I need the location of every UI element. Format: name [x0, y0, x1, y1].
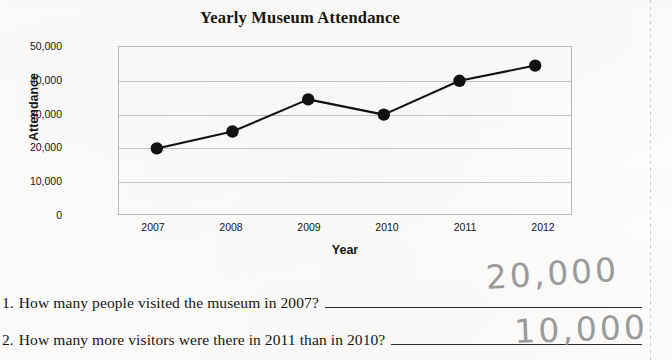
- question-2-answer-line[interactable]: [391, 344, 642, 345]
- x-tick-label-2012: 2012: [513, 221, 573, 233]
- question-2: 2. How many more visitors were there in …: [2, 331, 662, 357]
- y-tick-label-10000: 10,000: [0, 175, 62, 187]
- data-point-2007: [151, 142, 163, 154]
- question-1-answer-line[interactable]: [325, 307, 642, 308]
- chart-title: Yearly Museum Attendance: [0, 8, 600, 28]
- page-fold-line: [650, 0, 651, 360]
- x-tick-label-2009: 2009: [279, 221, 339, 233]
- data-point-2008: [226, 125, 238, 137]
- question-2-number: 2.: [2, 331, 14, 349]
- question-1-text: How many people visited the museum in 20…: [19, 294, 319, 312]
- x-tick-label-2011: 2011: [435, 221, 495, 233]
- y-tick-label-20000: 20,000: [0, 141, 62, 153]
- data-series-svg: [119, 47, 573, 216]
- question-2-text: How many more visitors were there in 201…: [19, 331, 386, 349]
- y-tick-label-0: 0: [0, 209, 62, 221]
- x-tick-label-2010: 2010: [357, 221, 417, 233]
- data-point-2012: [529, 59, 541, 71]
- plot-area: [118, 46, 572, 215]
- data-point-2009: [302, 93, 314, 105]
- series-line: [157, 66, 535, 149]
- data-point-2011: [453, 75, 465, 87]
- question-1-number: 1.: [2, 294, 14, 312]
- y-tick-label-30000: 30,000: [0, 108, 62, 120]
- data-point-2010: [378, 108, 390, 120]
- y-tick-label-40000: 40,000: [0, 74, 62, 86]
- x-tick-label-2008: 2008: [201, 221, 261, 233]
- y-tick-label-50000: 50,000: [0, 40, 62, 52]
- question-list: 1. How many people visited the museum in…: [0, 286, 672, 360]
- question-1: 1. How many people visited the museum in…: [2, 294, 662, 320]
- x-axis-title: Year: [118, 243, 572, 257]
- x-tick-label-2007: 2007: [123, 221, 183, 233]
- attendance-line-chart: Yearly Museum Attendance Attendance Year…: [0, 0, 620, 265]
